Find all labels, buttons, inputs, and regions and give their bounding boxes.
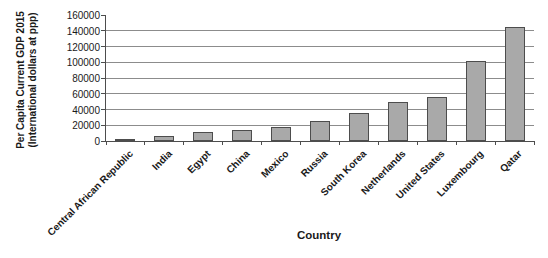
x-axis-tick bbox=[417, 141, 418, 145]
y-tick-label: 60000 bbox=[0, 89, 100, 100]
bar-russia bbox=[310, 121, 330, 141]
y-axis-tick bbox=[101, 78, 105, 79]
bar-south-korea bbox=[349, 113, 369, 141]
x-axis-title: Country bbox=[105, 229, 533, 241]
x-axis-tick bbox=[378, 141, 379, 145]
x-tick-label-text: China bbox=[225, 148, 252, 175]
bar-egypt bbox=[193, 132, 213, 141]
y-tick-label: 40000 bbox=[0, 105, 100, 116]
bar-china bbox=[232, 130, 252, 141]
y-tick-label: 100000 bbox=[0, 57, 100, 68]
gridline bbox=[106, 46, 534, 47]
bar-central-african-republic bbox=[115, 139, 135, 141]
x-axis-tick bbox=[339, 141, 340, 145]
bar-mexico bbox=[271, 127, 291, 141]
y-tick-label: 0 bbox=[0, 136, 100, 147]
x-tick-label-text: Qatar bbox=[498, 148, 524, 174]
y-tick-label: 140000 bbox=[0, 26, 100, 37]
x-tick-label-text: India bbox=[150, 148, 174, 172]
y-tick-label: 20000 bbox=[0, 120, 100, 131]
y-axis-tick bbox=[101, 62, 105, 63]
x-axis-tick bbox=[261, 141, 262, 145]
x-axis-tick bbox=[534, 141, 535, 145]
x-tick-label-text: Mexico bbox=[259, 148, 291, 180]
x-axis-tick bbox=[183, 141, 184, 145]
x-axis-tick bbox=[300, 141, 301, 145]
y-tick-label: 160000 bbox=[0, 10, 100, 21]
gridline bbox=[106, 30, 534, 31]
y-tick-label: 120000 bbox=[0, 42, 100, 53]
bar-chart: Per Capita Current GDP 2015 (Internation… bbox=[0, 0, 548, 258]
bar-united-states bbox=[427, 97, 447, 141]
bar-india bbox=[154, 136, 174, 141]
x-axis-tick bbox=[456, 141, 457, 145]
bar-netherlands bbox=[388, 102, 408, 141]
y-axis-tick bbox=[101, 109, 105, 110]
y-axis-tick bbox=[101, 46, 105, 47]
y-axis-tick bbox=[101, 15, 105, 16]
bar-qatar bbox=[505, 27, 525, 141]
bar-luxembourg bbox=[466, 61, 486, 141]
x-tick-label-text: Central African Republic bbox=[45, 148, 135, 238]
plot-area: 0200004000060000800001000001200001400001… bbox=[105, 15, 534, 142]
x-axis-tick bbox=[144, 141, 145, 145]
x-tick-label-text: Russia bbox=[299, 148, 330, 179]
y-axis-tick bbox=[101, 30, 105, 31]
x-axis-tick bbox=[106, 141, 107, 145]
y-axis-tick bbox=[101, 141, 105, 142]
y-axis-tick bbox=[101, 93, 105, 94]
x-axis-tick bbox=[222, 141, 223, 145]
x-axis-tick bbox=[495, 141, 496, 145]
y-axis-tick bbox=[101, 125, 105, 126]
x-tick-label-text: Egypt bbox=[186, 148, 213, 175]
y-tick-label: 80000 bbox=[0, 73, 100, 84]
